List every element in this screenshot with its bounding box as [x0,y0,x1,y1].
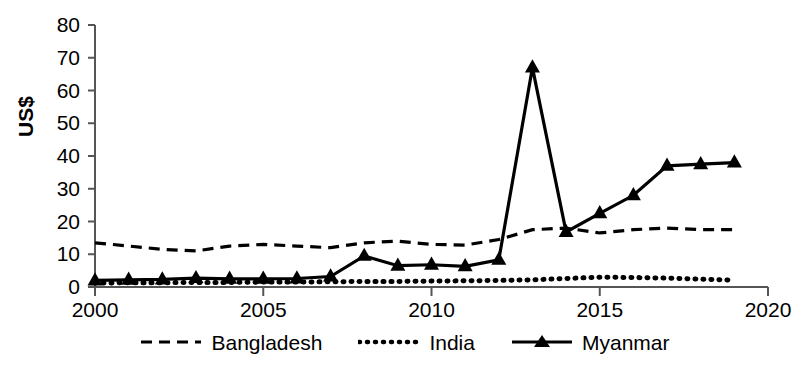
legend-swatch-india [358,334,420,350]
x-tick-label: 2020 [723,299,810,320]
x-tick-label: 2005 [218,299,308,320]
x-tick-label: 2010 [387,299,477,320]
series-marker-myanmar [491,252,506,265]
legend-label: Bangladesh [211,332,322,353]
y-tick-label: 10 [32,243,80,264]
series-marker-myanmar [357,248,372,261]
legend-swatch-bangladesh [140,334,202,350]
series-line-bangladesh [95,228,734,251]
legend-swatch-myanmar [511,334,573,350]
legend-item-bangladesh[interactable]: Bangladesh [140,332,322,353]
y-tick-label: 80 [32,14,80,35]
legend-label: Myanmar [582,332,670,353]
y-tick-label: 40 [32,145,80,166]
y-tick-label: 20 [32,211,80,232]
series-marker-myanmar [727,154,742,167]
y-tick-label: 0 [32,276,80,297]
y-tick-label: 50 [32,112,80,133]
series-marker-myanmar [424,256,439,269]
x-tick-label: 2000 [50,299,140,320]
y-tick-label: 30 [32,178,80,199]
legend-item-myanmar[interactable]: Myanmar [511,332,670,353]
series-marker-myanmar [525,59,540,72]
legend-item-india[interactable]: India [358,332,475,353]
legend-label: India [429,332,475,353]
series-line-myanmar [95,68,734,281]
series-marker-myanmar [188,270,203,283]
y-tick-label: 70 [32,47,80,68]
chart-figure: US$ BangladeshIndiaMyanmar 0102030405060… [0,0,810,368]
chart-legend: BangladeshIndiaMyanmar [0,322,810,362]
y-tick-label: 60 [32,80,80,101]
x-tick-label: 2015 [555,299,645,320]
